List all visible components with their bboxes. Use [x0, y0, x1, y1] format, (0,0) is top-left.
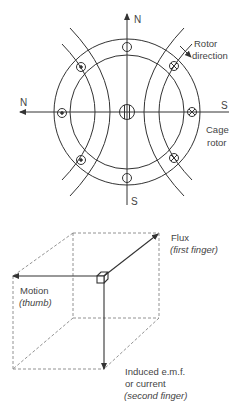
motion-sub-label: (thumb): [19, 297, 52, 308]
cage-rotor-label-2: rotor: [207, 137, 227, 148]
emf-label-2: or current: [125, 378, 166, 389]
emf-label-1: Induced e.m.f.: [125, 366, 185, 377]
flux-label: Flux: [171, 232, 189, 243]
axis-label-top: N: [134, 14, 141, 25]
axis-label-bottom: S: [131, 196, 138, 207]
cage-rotor-label-1: Cage: [206, 124, 229, 135]
emf-sub-label: (second finger): [124, 390, 187, 401]
axis-label-left: N: [20, 97, 27, 108]
rotor-direction-label-1: Rotor: [194, 38, 217, 49]
flux-sub-label: (first finger): [170, 244, 218, 255]
axis-label-right: S: [221, 100, 228, 111]
motion-label: Motion: [20, 285, 49, 296]
motor-diagram-svg: [0, 0, 251, 416]
rotor-direction-label-2: direction: [192, 50, 228, 61]
diagram-canvas: N S N S Rotor direction Cage rotor Flux …: [0, 0, 251, 416]
